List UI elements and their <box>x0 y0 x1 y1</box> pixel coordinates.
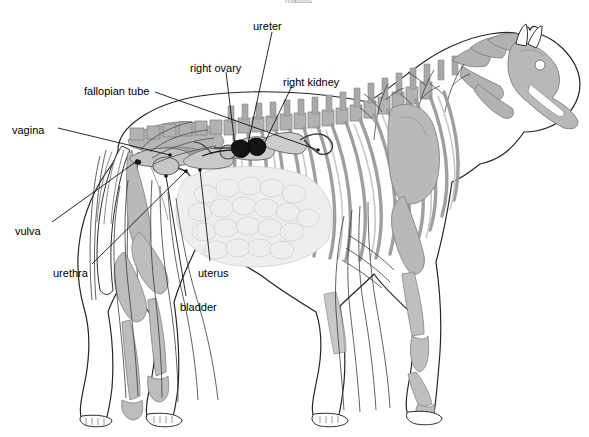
label-urethra: urethra <box>53 267 88 279</box>
bladder-organ <box>153 157 179 175</box>
label-uterus: uterus <box>198 267 229 279</box>
label-ureter: ureter <box>253 20 282 32</box>
label-right-ovary: right ovary <box>190 62 241 74</box>
label-right-kidney: right kidney <box>283 76 339 88</box>
anatomy-figure: mastitis <box>0 0 589 437</box>
horse-anatomy-illustration <box>0 0 589 437</box>
label-vagina: vagina <box>12 124 44 136</box>
label-vulva: vulva <box>15 225 41 237</box>
abdominal-viscera <box>176 166 332 266</box>
label-fallopian-tube: fallopian tube <box>84 85 149 97</box>
label-bladder: bladder <box>180 301 217 313</box>
